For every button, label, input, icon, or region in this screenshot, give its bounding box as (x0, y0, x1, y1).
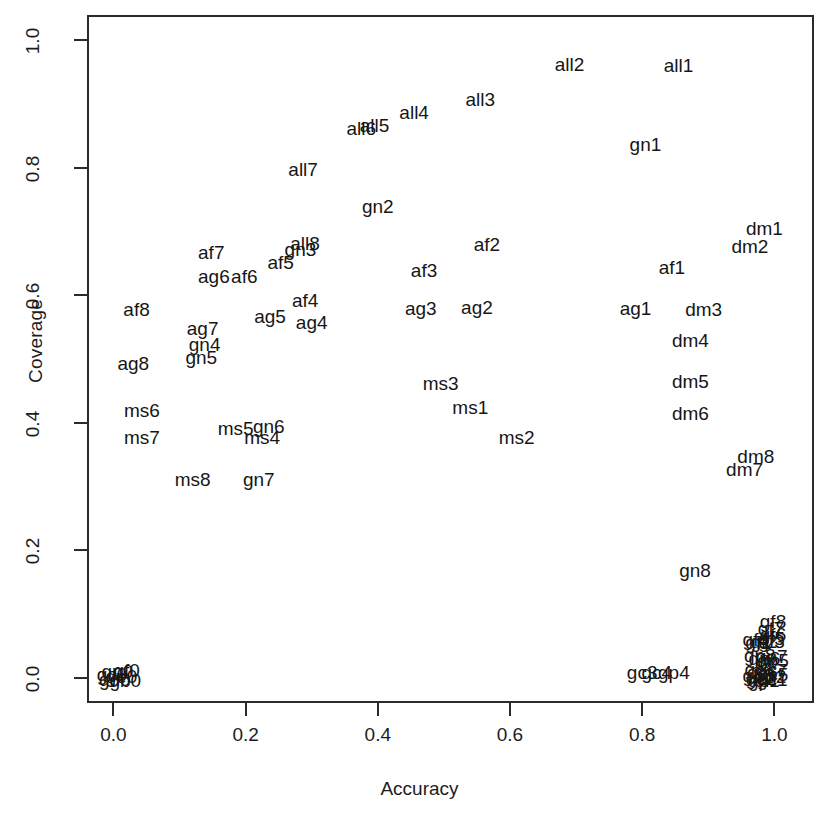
data-point-label: af8 (123, 300, 149, 319)
data-point-label: dm4 (672, 330, 709, 349)
data-point-label: ag2 (461, 297, 493, 316)
x-tick-mark (245, 703, 247, 716)
y-tick-mark (74, 167, 87, 169)
data-point-label: dm2 (731, 236, 768, 255)
data-point-label: ag4 (296, 313, 328, 332)
x-tick-mark (641, 703, 643, 716)
y-tick-mark (74, 39, 87, 41)
data-point-label: gn2 (362, 197, 394, 216)
data-point-label: all1 (664, 55, 694, 74)
data-point-label: gp4 (658, 663, 690, 682)
data-point-label: ag7 (187, 319, 219, 338)
y-tick-mark (74, 294, 87, 296)
scatter-plot-figure: 0.00.20.40.60.81.0 0.00.20.40.60.81.0 al… (0, 0, 839, 827)
data-point-label: af7 (198, 242, 224, 261)
data-point-label: ag5 (254, 306, 286, 325)
data-point-label: gn5 (185, 348, 217, 367)
y-tick-label: 0.2 (22, 516, 44, 586)
x-tick-label: 0.6 (470, 724, 550, 746)
data-point-label: gn8 (679, 561, 711, 580)
y-tick-mark (74, 677, 87, 679)
y-tick-mark (74, 422, 87, 424)
data-point-label: ag6 (198, 267, 230, 286)
data-point-label: ag3 (405, 299, 437, 318)
y-tick-mark (74, 549, 87, 551)
data-point-label: af3 (411, 260, 437, 279)
x-tick-mark (773, 703, 775, 716)
data-point-label: af5 (267, 253, 293, 272)
data-point-label: af1 (659, 257, 685, 276)
y-tick-label: 0.0 (22, 644, 44, 714)
x-tick-label: 1.0 (734, 724, 814, 746)
data-point-label: ms1 (452, 397, 488, 416)
data-point-label: dm5 (672, 372, 709, 391)
data-point-label: all4 (399, 102, 429, 121)
data-point-label: gn1 (630, 134, 662, 153)
data-point-label: gn7 (243, 469, 275, 488)
data-point-label: dm3 (685, 300, 722, 319)
x-tick-mark (112, 703, 114, 716)
x-tick-mark (377, 703, 379, 716)
data-point-label: ag1 (620, 299, 652, 318)
y-axis-title: Coverage (25, 271, 47, 411)
data-point-label: dm8 (737, 446, 774, 465)
x-tick-label: 0.4 (338, 724, 418, 746)
data-point-label: ms3 (423, 373, 459, 392)
data-point-label: af2 (474, 235, 500, 254)
data-point-label: af4 (292, 291, 318, 310)
data-point-label: ms5 (218, 418, 254, 437)
x-tick-label: 0.0 (73, 724, 153, 746)
data-point-label: all6 (346, 119, 376, 138)
x-axis-title: Accuracy (0, 778, 839, 800)
x-tick-label: 0.8 (602, 724, 682, 746)
data-point-label: gb0 (109, 671, 141, 690)
data-point-label: ms6 (124, 400, 160, 419)
y-tick-label: 0.8 (22, 134, 44, 204)
data-point-label: ag8 (117, 354, 149, 373)
x-tick-mark (509, 703, 511, 716)
data-point-label: dm6 (672, 404, 709, 423)
data-point-label: all7 (288, 160, 318, 179)
y-tick-label: 1.0 (22, 6, 44, 76)
data-point-label: all3 (465, 90, 495, 109)
data-point-label: ms8 (175, 469, 211, 488)
data-point-label: all2 (555, 55, 585, 74)
data-point-label: gp1 (748, 671, 780, 690)
x-tick-label: 0.2 (206, 724, 286, 746)
data-point-label: ms2 (499, 427, 535, 446)
data-point-label: af6 (231, 267, 257, 286)
data-point-label: ms7 (124, 427, 160, 446)
